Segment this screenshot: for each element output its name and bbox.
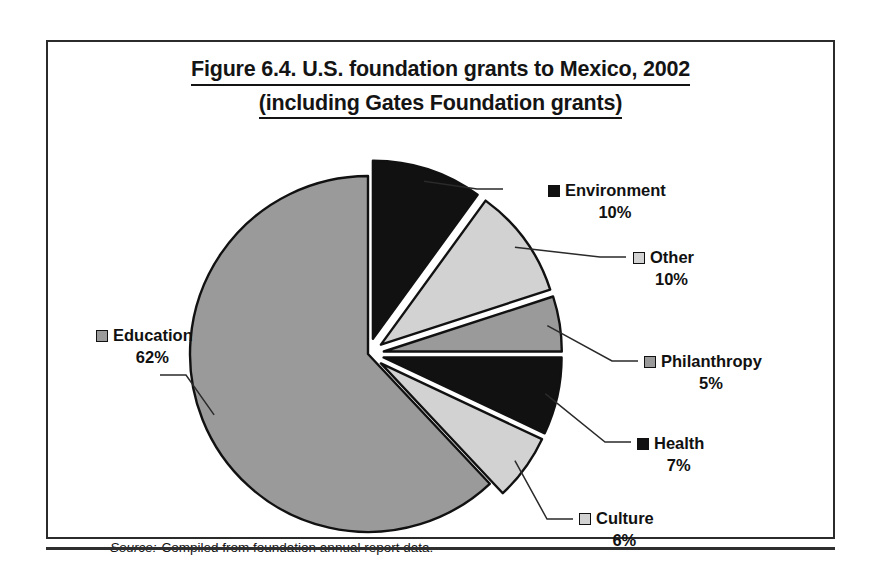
other-percent: 10% bbox=[649, 269, 694, 291]
education-label-text: Education bbox=[113, 325, 193, 347]
education-percent: 62% bbox=[112, 347, 193, 369]
environment-label-text: Environment bbox=[565, 180, 666, 202]
figure-frame: Figure 6.4. U.S. foundation grants to Me… bbox=[46, 40, 835, 539]
pie-slice-culture bbox=[381, 363, 542, 493]
pie-slice-education bbox=[190, 176, 490, 532]
pie-slice-other bbox=[381, 201, 550, 345]
leader-line-other bbox=[515, 247, 626, 257]
philanthropy-swatch-icon bbox=[644, 356, 656, 368]
other-label-text: Other bbox=[650, 247, 694, 269]
figure-title: Figure 6.4. U.S. foundation grants to Me… bbox=[48, 56, 833, 119]
figure-title-line-2: (including Gates Foundation grants) bbox=[259, 90, 622, 120]
environment-percent: 10% bbox=[564, 202, 666, 224]
leader-line-environment bbox=[424, 181, 503, 189]
health-label-text: Health bbox=[654, 433, 704, 455]
environment-swatch-icon bbox=[548, 185, 560, 197]
leader-line-education bbox=[160, 375, 214, 415]
slice-label-other: Other 10% bbox=[633, 247, 694, 291]
bottom-rule bbox=[46, 547, 835, 550]
slice-label-environment: Environment 10% bbox=[548, 180, 666, 224]
leader-line-health bbox=[545, 394, 631, 442]
leader-line-culture bbox=[515, 461, 573, 519]
pie-slice-philanthropy bbox=[384, 297, 562, 352]
health-percent: 7% bbox=[653, 455, 704, 477]
slice-label-culture: Culture 6% bbox=[579, 508, 654, 552]
slice-label-education: Education 62% bbox=[96, 325, 193, 369]
pie-slice-health bbox=[384, 358, 562, 434]
pie-slice-environment bbox=[373, 161, 478, 339]
slice-label-health: Health 7% bbox=[637, 433, 704, 477]
health-swatch-icon bbox=[637, 438, 649, 450]
leader-line-philanthropy bbox=[547, 326, 638, 361]
philanthropy-label-text: Philanthropy bbox=[661, 351, 762, 373]
figure-root: Figure 6.4. U.S. foundation grants to Me… bbox=[0, 0, 882, 578]
leader-lines bbox=[160, 181, 638, 519]
slice-label-philanthropy: Philanthropy 5% bbox=[644, 351, 762, 395]
culture-swatch-icon bbox=[579, 513, 591, 525]
figure-title-line-1: Figure 6.4. U.S. foundation grants to Me… bbox=[191, 56, 690, 86]
education-swatch-icon bbox=[96, 330, 108, 342]
philanthropy-percent: 5% bbox=[660, 373, 762, 395]
other-swatch-icon bbox=[633, 252, 645, 264]
culture-label-text: Culture bbox=[596, 508, 654, 530]
